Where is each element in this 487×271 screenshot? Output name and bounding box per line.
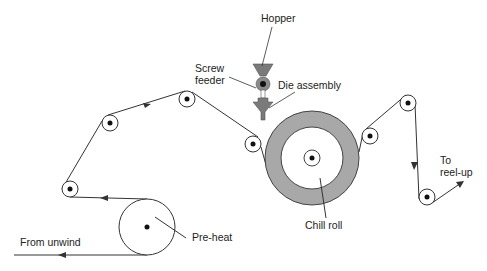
flow-arrows	[58, 103, 464, 258]
arrow-reelup-icon	[456, 181, 464, 188]
label-hopper: Hopper	[261, 12, 296, 24]
web-path	[14, 91, 461, 255]
label-to: To	[440, 154, 451, 166]
arrow-down-icon	[411, 162, 418, 170]
hopper-shape	[253, 64, 273, 76]
label-chill-roll: Chill roll	[305, 219, 342, 231]
label-reel-up: reel-up	[440, 166, 473, 178]
label-screw: Screw	[195, 62, 225, 74]
pre-heat-roll	[119, 199, 186, 255]
label-from-unwind: From unwind	[20, 236, 81, 248]
arrow-right-icon	[58, 252, 66, 258]
chill-roll	[265, 111, 359, 218]
roller-2	[102, 115, 118, 131]
roller-7	[419, 189, 435, 205]
die-shape	[253, 98, 273, 120]
diagram-canvas: Hopper Screw feeder Die assembly Chill r…	[0, 0, 487, 271]
label-feeder: feeder	[195, 74, 225, 86]
process-diagram: Hopper Screw feeder Die assembly Chill r…	[0, 0, 487, 271]
roller-6	[400, 95, 416, 111]
arrow-left-icon	[100, 195, 108, 201]
label-die-assembly: Die assembly	[278, 79, 342, 91]
roller-4	[245, 136, 261, 152]
idler-rollers	[62, 91, 435, 205]
label-pre-heat: Pre-heat	[192, 231, 232, 243]
roller-5	[362, 128, 378, 144]
extruder-assembly	[229, 27, 295, 120]
arrow-up-right-icon	[143, 103, 151, 108]
roller-1	[62, 181, 78, 197]
roller-3	[179, 91, 195, 107]
